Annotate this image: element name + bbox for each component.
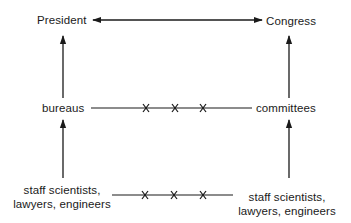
- staff-staff-blocked-link: [112, 191, 233, 199]
- president-label: President: [37, 13, 86, 27]
- committees-label: committees: [256, 101, 316, 115]
- right-staff-line2: lawyers, engineers: [235, 204, 339, 218]
- bureaus-committees-blocked-link: [91, 104, 252, 112]
- left-staff-line1: staff scientists,: [10, 183, 114, 197]
- left-staff-line2: lawyers, engineers: [10, 197, 114, 211]
- left-staff-label: staff scientists, lawyers, engineers: [10, 183, 114, 211]
- right-staff-label: staff scientists, lawyers, engineers: [235, 190, 339, 218]
- bureaus-label: bureaus: [42, 101, 84, 115]
- congress-label: Congress: [266, 14, 316, 28]
- right-staff-line1: staff scientists,: [235, 190, 339, 204]
